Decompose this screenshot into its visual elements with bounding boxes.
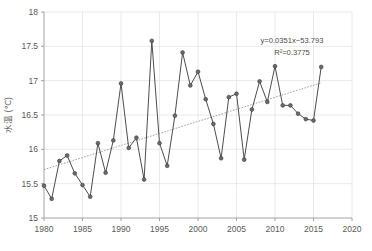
x-tick-label-0: 1980 — [35, 224, 54, 234]
data-point-marker — [42, 184, 46, 188]
x-tick-label-4: 2000 — [189, 224, 208, 234]
y-tick-label-0: 18 — [29, 7, 39, 17]
data-point-marker — [50, 197, 54, 201]
data-point-marker — [281, 103, 285, 107]
data-point-marker — [296, 112, 300, 116]
data-point-marker — [111, 139, 115, 143]
chart-canvas: 1817.51716.51615.515 1980198519901995200… — [0, 0, 372, 251]
data-point-marker — [196, 70, 200, 74]
y-axis-title: 水温 (℃) — [3, 97, 13, 133]
data-point-marker — [81, 183, 85, 187]
data-point-markers — [42, 39, 323, 201]
data-point-marker — [135, 136, 139, 140]
data-point-marker — [235, 92, 239, 96]
data-point-marker — [165, 164, 169, 168]
data-point-marker — [273, 64, 277, 68]
data-point-marker — [181, 51, 185, 55]
data-point-marker — [142, 178, 146, 182]
linear-trendline — [44, 83, 321, 170]
data-point-marker — [127, 146, 131, 150]
y-tick-label-5: 15.5 — [21, 179, 38, 189]
data-point-marker — [73, 171, 77, 175]
y-tick-label-2: 17 — [29, 76, 39, 86]
data-point-marker — [312, 119, 316, 123]
data-point-marker — [265, 100, 269, 104]
x-tick-label-3: 1995 — [150, 224, 169, 234]
data-point-marker — [242, 158, 246, 162]
water-temperature-chart: 1817.51716.51615.515 1980198519901995200… — [0, 0, 372, 251]
data-point-marker — [227, 95, 231, 99]
data-point-marker — [104, 171, 108, 175]
data-point-marker — [158, 141, 162, 145]
data-point-marker — [319, 65, 323, 69]
data-point-marker — [250, 108, 254, 112]
data-point-marker — [150, 39, 154, 43]
data-point-marker — [188, 84, 192, 88]
data-point-marker — [119, 82, 123, 86]
x-tick-label-5: 2005 — [227, 224, 246, 234]
y-tick-label-3: 16.5 — [21, 110, 38, 120]
trendline-equation-label: y=0.0351x−53.793 — [261, 36, 324, 45]
y-tick-label-4: 16 — [29, 144, 39, 154]
data-point-marker — [219, 156, 223, 160]
data-series-line — [44, 41, 321, 199]
data-point-marker — [58, 159, 62, 163]
x-axis-tick-labels: 198019851990199520002005201020152020 — [35, 224, 362, 234]
data-point-marker — [204, 97, 208, 101]
data-point-marker — [304, 117, 308, 121]
x-tick-label-2: 1990 — [112, 224, 131, 234]
data-point-marker — [289, 103, 293, 107]
data-point-marker — [88, 195, 92, 199]
x-tick-label-7: 2015 — [304, 224, 323, 234]
data-point-marker — [173, 114, 177, 118]
x-tick-label-1: 1985 — [73, 224, 92, 234]
y-tick-label-1: 17.5 — [21, 41, 38, 51]
data-series-group — [44, 41, 321, 199]
data-point-marker — [65, 154, 69, 158]
data-point-marker — [212, 122, 216, 126]
data-point-marker — [96, 141, 100, 145]
x-tick-label-6: 2010 — [266, 224, 285, 234]
y-axis-tick-labels: 1817.51716.51615.515 — [21, 7, 38, 223]
y-tick-label-6: 15 — [29, 213, 39, 223]
trendline-group — [44, 83, 321, 170]
data-point-marker — [258, 79, 262, 83]
trendline-r-squared-label: R²=0.3775 — [274, 48, 310, 57]
x-tick-label-8: 2020 — [343, 224, 362, 234]
